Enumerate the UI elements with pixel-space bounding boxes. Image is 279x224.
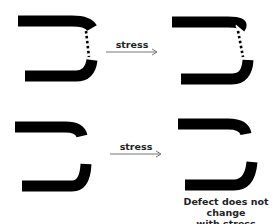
diagram-canvas <box>0 0 279 224</box>
defect-dots <box>86 31 89 57</box>
caption-line1: Defect does not change <box>170 196 279 218</box>
caption: Defect does not change with stress <box>170 196 279 224</box>
defect-dots <box>238 31 243 57</box>
shape-row2-after <box>178 124 252 185</box>
arrow-label-row1: stress <box>110 39 154 50</box>
shape-row1-before <box>18 21 92 76</box>
shape-row1-after <box>172 22 248 79</box>
arrow-label-row2: stress <box>114 141 158 152</box>
shape-row2-before <box>15 127 86 186</box>
caption-line2: with stress <box>170 218 279 224</box>
